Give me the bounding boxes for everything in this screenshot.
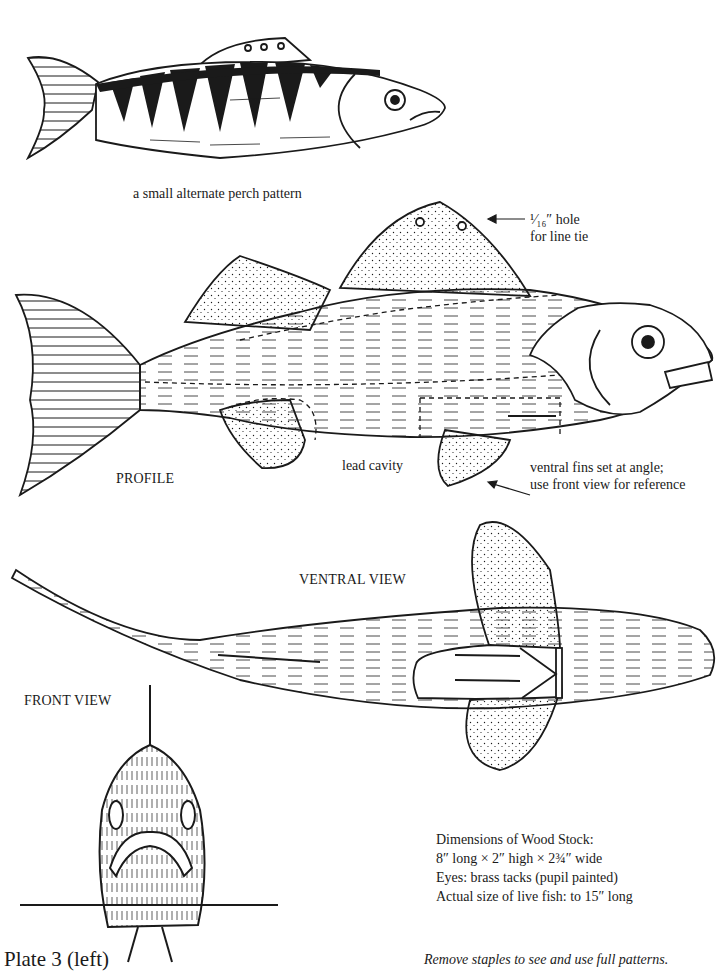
dimensions-eyes: Eyes: brass tacks (pupil painted)	[436, 868, 633, 887]
ventral-fins-note-line2: use front view for reference	[530, 476, 685, 493]
front-view-label: FRONT VIEW	[24, 692, 111, 709]
ventral-view-label: VENTRAL VIEW	[299, 571, 406, 588]
ventral-fins-note-line1: ventral fins set at angle;	[530, 459, 664, 476]
staples-instruction: Remove staples to see and use full patte…	[424, 952, 668, 968]
profile-fish-illustration	[16, 202, 712, 495]
alternate-pattern-caption: a small alternate perch pattern	[133, 185, 302, 202]
dimensions-size: 8″ long × 2″ high × 2¾″ wide	[436, 849, 633, 868]
profile-label: PROFILE	[116, 470, 174, 487]
dimensions-heading: Dimensions of Wood Stock:	[436, 830, 633, 849]
ventral-view-illustration	[12, 522, 714, 770]
lead-cavity-label: lead cavity	[342, 457, 403, 474]
front-view-illustration	[20, 685, 278, 962]
dimensions-actual-size: Actual size of live fish: to 15″ long	[436, 887, 633, 906]
plate-label: Plate 3 (left)	[4, 946, 109, 972]
pattern-plate-page: a small alternate perch pattern ¹⁄₁₆″ ho…	[0, 0, 719, 978]
hole-note-line2: for line tie	[530, 228, 588, 245]
hole-note-line1: ¹⁄₁₆″ hole	[530, 211, 580, 228]
alternate-perch-illustration	[28, 38, 445, 158]
wood-stock-dimensions: Dimensions of Wood Stock: 8″ long × 2″ h…	[436, 830, 633, 906]
